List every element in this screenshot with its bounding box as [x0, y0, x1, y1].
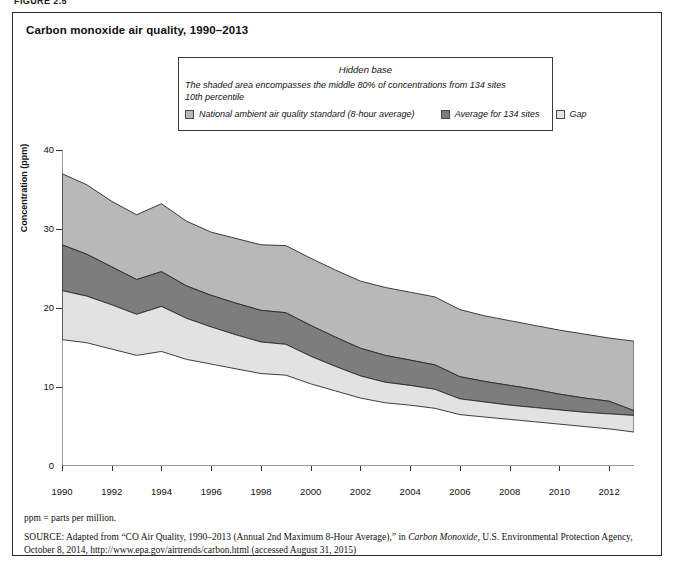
figure-label: FIGURE 2.5	[14, 0, 67, 6]
x-tick-mark	[460, 466, 461, 471]
x-tick-1996: 1996	[191, 486, 231, 497]
footnote-ppm: ppm = parts per million.	[24, 513, 116, 523]
legend-description-line1: The shaded area encompasses the middle 8…	[185, 80, 506, 92]
x-tick-mark	[360, 466, 361, 471]
x-tick-mark	[311, 466, 312, 471]
legend-item-average[interactable]: Average for 134 sites	[441, 109, 540, 119]
x-tick-2000: 2000	[291, 486, 331, 497]
x-tick-1994: 1994	[141, 486, 181, 497]
x-tick-2006: 2006	[440, 486, 480, 497]
x-tick-mark	[261, 466, 262, 471]
chart-plot-area	[62, 150, 634, 466]
source-text-before: Adapted from “CO Air Quality, 1990–2013 …	[64, 532, 408, 542]
legend-swatch-average-icon	[441, 110, 450, 119]
x-tick-mark	[559, 466, 560, 471]
y-tick-30: 30	[28, 223, 54, 234]
legend-swatch-standard-icon	[185, 110, 194, 119]
x-tick-mark	[112, 466, 113, 471]
legend-label-average: Average for 134 sites	[455, 109, 540, 119]
x-tick-1992: 1992	[92, 486, 132, 497]
x-tick-2002: 2002	[340, 486, 380, 497]
x-tick-2010: 2010	[539, 486, 579, 497]
source-prefix: SOURCE:	[24, 532, 64, 542]
legend-item-gap[interactable]: Gap	[556, 109, 587, 119]
y-tick-10: 10	[28, 381, 54, 392]
x-tick-2008: 2008	[490, 486, 530, 497]
x-tick-mark	[510, 466, 511, 471]
x-tick-mark	[410, 466, 411, 471]
x-tick-1998: 1998	[241, 486, 281, 497]
legend-hidden-base: Hidden base	[179, 64, 552, 75]
x-tick-2012: 2012	[589, 486, 629, 497]
legend-description: The shaded area encompasses the middle 8…	[185, 80, 506, 103]
legend-label-standard: National ambient air quality standard (8…	[199, 109, 415, 119]
x-tick-mark	[161, 466, 162, 471]
x-tick-1990: 1990	[42, 486, 82, 497]
x-tick-mark	[62, 466, 63, 471]
y-tick-40: 40	[28, 144, 54, 155]
legend-swatch-gap-icon	[556, 110, 565, 119]
page-title: Carbon monoxide air quality, 1990–2013	[26, 24, 248, 36]
legend-label-gap: Gap	[570, 109, 587, 119]
x-tick-mark	[211, 466, 212, 471]
area-chart	[62, 150, 634, 466]
legend-item-standard[interactable]: National ambient air quality standard (8…	[185, 109, 415, 119]
legend-items: National ambient air quality standard (8…	[185, 109, 547, 119]
y-tick-20: 20	[28, 302, 54, 313]
y-tick-0: 0	[28, 460, 54, 471]
source-italic-title: Carbon Monoxide	[408, 532, 477, 542]
x-tick-mark	[609, 466, 610, 471]
chart-legend: Hidden base The shaded area encompasses …	[178, 57, 553, 131]
x-tick-2004: 2004	[390, 486, 430, 497]
legend-description-line2: 10th percentile	[185, 92, 506, 104]
figure-page: FIGURE 2.5 Carbon monoxide air quality, …	[0, 0, 678, 565]
source-note: SOURCE: Adapted from “CO Air Quality, 19…	[24, 531, 644, 557]
